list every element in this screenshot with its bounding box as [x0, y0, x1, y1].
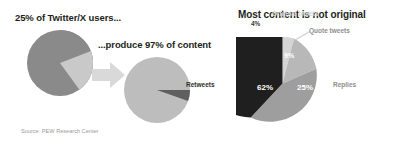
pie-value-quote-tweets: 9%: [284, 52, 294, 59]
pie-value-replies: 25%: [297, 83, 313, 92]
pie-label-original-tweets: Original tweets: [272, 10, 319, 17]
pie-chart-content-svg: [124, 57, 190, 123]
pie-chart-content-types: Retweets 62% Replies 25% Quote tweets 9%…: [236, 37, 329, 130]
left-headline: 25% of Twitter/X users...: [15, 12, 121, 23]
right-arrow-icon: [92, 60, 126, 90]
pie-value-retweets: 62%: [257, 83, 273, 92]
pie-chart-content: [124, 57, 190, 123]
pie-label-retweets: Retweets: [186, 81, 215, 88]
pie-chart-users-svg: [27, 30, 93, 96]
pie-label-replies: Replies: [333, 81, 356, 88]
pie-chart-users: [27, 30, 93, 96]
pie-value-original-tweets: 4%: [251, 20, 260, 27]
pie-chart-content-types-svg: [236, 37, 329, 130]
right-chart-panel: Most content is not original Retweets 62…: [205, 0, 409, 151]
pie-label-quote-tweets: Quote tweets: [309, 27, 350, 34]
left-chart-panel: 25% of Twitter/X users... ...produce 97%…: [0, 0, 205, 151]
source-note: Source: PEW Research Center: [21, 128, 98, 134]
middle-headline: ...produce 97% of content: [98, 39, 211, 50]
